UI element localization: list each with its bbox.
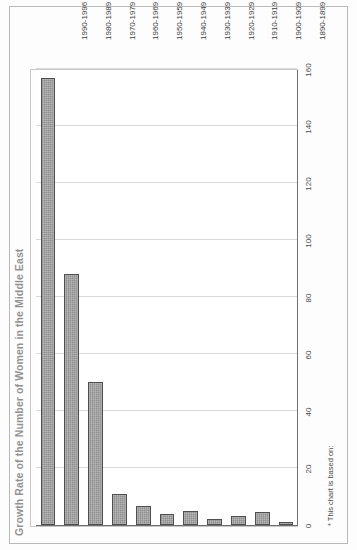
category-tick-label: 1900-1909 xyxy=(294,2,303,40)
bar xyxy=(136,506,151,525)
chart-title: Growth Rate of the Number of Women in th… xyxy=(13,16,25,536)
bar xyxy=(255,512,270,525)
plot-area: 020406080100120140160 1890-18991900-1909… xyxy=(36,70,298,526)
bar xyxy=(183,511,198,525)
category-tick-label: 1970-1979 xyxy=(127,2,136,40)
bar xyxy=(207,519,222,525)
value-tick-label: 120 xyxy=(304,177,313,190)
value-tick-label: 140 xyxy=(304,120,313,133)
bar xyxy=(41,78,56,525)
scanned-page: Growth Rate of the Number of Women in th… xyxy=(0,0,357,550)
category-tick-label: 1940-1949 xyxy=(199,2,208,40)
category-tick-label: 1890-1899 xyxy=(318,2,327,40)
category-tick-label: 1910-1919 xyxy=(270,2,279,40)
rotated-scan-canvas: Growth Rate of the Number of Women in th… xyxy=(0,0,357,550)
value-tick-label: 160 xyxy=(304,63,313,76)
bar xyxy=(160,514,175,525)
value-tick-label: 0 xyxy=(304,524,313,528)
footnote: * This chart is based on: xyxy=(326,446,335,526)
gridline xyxy=(36,68,297,69)
bar xyxy=(112,494,127,525)
category-tick-label: 1930-1939 xyxy=(222,2,231,40)
bar xyxy=(64,274,79,525)
category-tick-label: 1960-1969 xyxy=(151,2,160,40)
bar xyxy=(88,383,103,526)
value-tick-label: 80 xyxy=(304,294,313,303)
value-tick-label: 40 xyxy=(304,408,313,417)
value-tick-label: 60 xyxy=(304,351,313,360)
value-tick-label: 20 xyxy=(304,465,313,474)
bar-series xyxy=(36,70,297,525)
bar xyxy=(231,516,246,525)
category-tick-label: 1950-1959 xyxy=(175,2,184,40)
value-tick-label: 100 xyxy=(304,234,313,247)
plot-canvas xyxy=(36,70,298,526)
category-tick-label: 1990-1996 xyxy=(79,2,88,40)
category-tick-label: 1980-1989 xyxy=(103,2,112,40)
bar xyxy=(279,522,294,525)
category-tick-label: 1920-1929 xyxy=(246,2,255,40)
